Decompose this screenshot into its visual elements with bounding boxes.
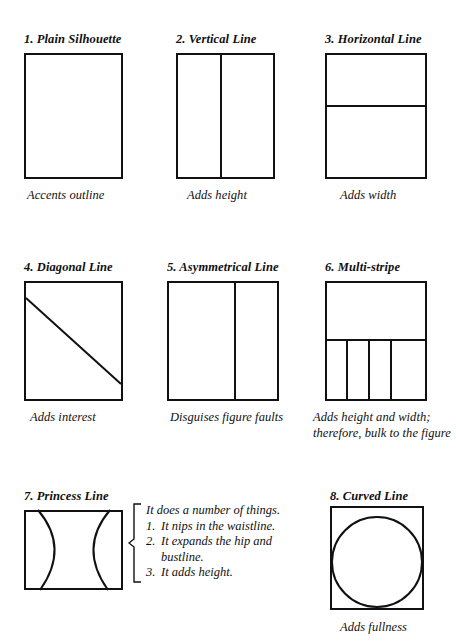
figure-box-horizontal-line <box>325 53 427 179</box>
princess-line-note: It does a number of things. 1.It nips in… <box>128 503 308 583</box>
multi-stripe-glyph <box>325 281 427 401</box>
list-item: 3.It adds height. <box>146 565 308 581</box>
princess-note-items: 1.It nips in the waistline. 2.It expands… <box>146 519 308 581</box>
brace-shape <box>128 503 142 583</box>
figure-box-curved-line <box>330 506 424 610</box>
asymmetrical-line-glyph <box>167 281 279 401</box>
curly-brace-icon <box>128 503 142 583</box>
list-item-text: It adds height. <box>161 565 233 579</box>
figure-page: 1. Plain Silhouette Accents outline 2. V… <box>0 0 456 642</box>
figure-caption-8: Adds fullness <box>340 620 407 636</box>
figure-title-3: 3. Horizontal Line <box>325 32 422 46</box>
list-item-text: It expands the hip and bustline. <box>161 534 272 564</box>
figure-caption-3: Adds width <box>340 188 396 204</box>
circle-glyph <box>330 506 424 610</box>
figure-title-8: 8. Curved Line <box>330 489 408 503</box>
list-item-number: 2. <box>146 534 161 550</box>
figure-caption-2: Adds height <box>187 188 247 204</box>
list-item-text: It nips in the waistline. <box>161 519 275 533</box>
vertical-line-glyph <box>176 53 275 179</box>
figure-box-princess-line <box>24 510 123 590</box>
figure-title-4: 4. Diagonal Line <box>24 260 113 274</box>
figure-caption-6: Adds height and width; therefore, bulk t… <box>313 410 453 441</box>
figure-caption-1: Accents outline <box>27 188 104 204</box>
list-item: 2.It expands the hip and bustline. <box>146 534 308 565</box>
figure-title-2: 2. Vertical Line <box>176 32 256 46</box>
figure-title-5: 5. Asymmetrical Line <box>167 260 279 274</box>
figure-box-multi-stripe <box>325 281 427 401</box>
princess-note-lead: It does a number of things. <box>146 503 308 519</box>
list-item: 1.It nips in the waistline. <box>146 519 308 535</box>
figure-title-7: 7. Princess Line <box>24 489 109 503</box>
figure-title-6: 6. Multi-stripe <box>325 260 400 274</box>
list-item-number: 3. <box>146 565 161 581</box>
figure-title-1: 1. Plain Silhouette <box>24 32 121 46</box>
figure-caption-4: Adds interest <box>30 410 96 426</box>
horizontal-line-glyph <box>325 53 427 179</box>
princess-line-list: It does a number of things. 1.It nips in… <box>146 503 308 583</box>
list-item-number: 1. <box>146 519 161 535</box>
diagonal-line-glyph <box>24 281 123 401</box>
figure-box-asymmetrical-line <box>167 281 279 401</box>
princess-curves-glyph <box>24 510 123 590</box>
figure-box-vertical-line <box>176 53 275 179</box>
figure-caption-5: Disguises figure faults <box>170 410 283 426</box>
figure-box-plain-silhouette <box>24 53 123 179</box>
figure-box-diagonal-line <box>24 281 123 401</box>
